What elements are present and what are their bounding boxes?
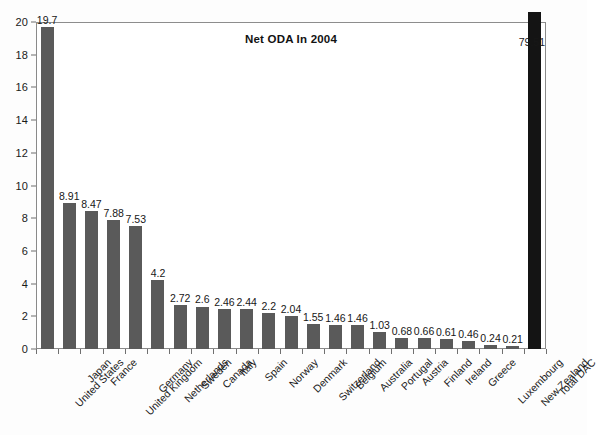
x-axis-tick-label-text: Spain	[262, 356, 289, 383]
x-axis-tick-label: Spain	[262, 356, 289, 383]
